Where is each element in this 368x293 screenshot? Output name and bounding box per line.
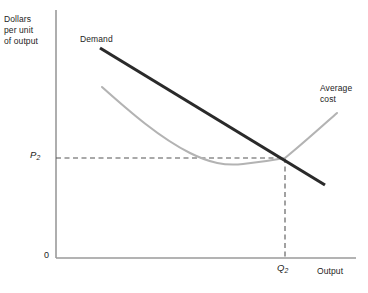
y-axis-title: Dollars per unit of output [4,14,38,47]
price-axis-label: P2 [30,150,40,164]
demand-line [100,48,325,185]
economics-figure: Dollars per unit of output Output 0 Dema… [0,0,368,293]
quantity-subscript: 2 [285,267,289,274]
origin-label: 0 [44,250,49,261]
average-cost-curve [102,87,337,165]
price-subscript: 2 [36,154,40,161]
quantity-axis-label: Q2 [277,263,288,277]
quantity-symbol: Q [277,262,285,273]
demand-curve-label: Demand [80,34,113,45]
x-axis-title: Output [317,266,343,277]
chart-canvas [0,0,368,293]
average-cost-curve-label: Average cost [320,83,352,105]
